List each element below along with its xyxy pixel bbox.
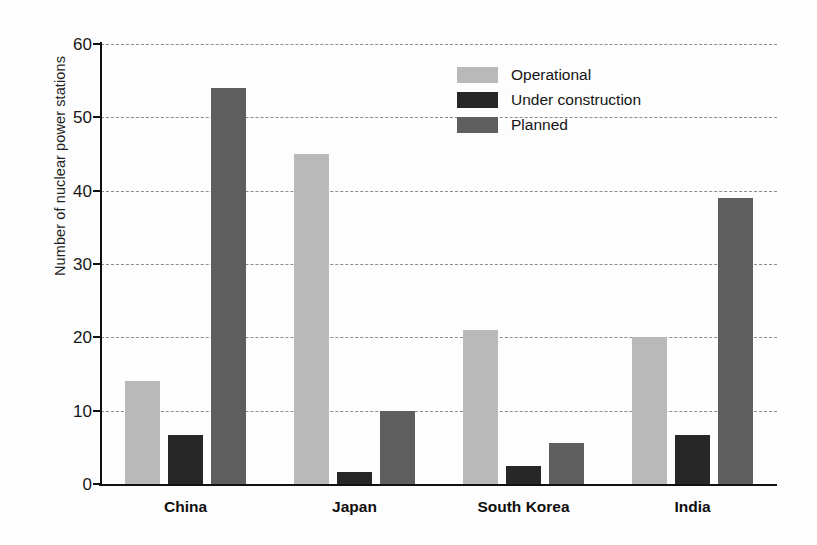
x-axis-line: [99, 484, 777, 486]
legend-label-operational: Operational: [511, 66, 591, 84]
legend-swatch-under-construction: [457, 92, 498, 108]
bars-layer: [101, 44, 777, 484]
bar-chart: Number of nuclear power stations 0102030…: [0, 0, 817, 545]
y-tick-label-40: 40: [48, 182, 92, 199]
y-tick-label-50: 50: [48, 109, 92, 126]
legend-item-under-construction: Under construction: [457, 87, 641, 112]
x-axis-label-india: India: [674, 498, 710, 516]
bar-india-operational: [632, 337, 667, 484]
x-axis-label-japan: Japan: [332, 498, 377, 516]
legend-swatch-operational: [457, 67, 498, 83]
y-tick-label-10: 10: [48, 402, 92, 419]
y-tick-label-30: 30: [48, 256, 92, 273]
y-tick-label-20: 20: [48, 329, 92, 346]
bar-india-under-construction: [675, 435, 710, 484]
bar-india-planned: [718, 198, 753, 484]
bar-china-planned: [211, 88, 246, 484]
bar-japan-under-construction: [337, 472, 372, 484]
legend-swatch-planned: [457, 117, 498, 133]
x-axis-label-south-korea: South Korea: [477, 498, 569, 516]
bar-japan-planned: [380, 411, 415, 484]
legend-label-under-construction: Under construction: [511, 91, 641, 109]
bar-china-under-construction: [168, 435, 203, 484]
bar-japan-operational: [294, 154, 329, 484]
plot-area: 0102030405060: [101, 44, 777, 484]
bar-china-operational: [125, 381, 160, 484]
legend-item-planned: Planned: [457, 112, 641, 137]
legend-label-planned: Planned: [511, 116, 568, 134]
y-tick-label-0: 0: [48, 476, 92, 493]
chart-legend: OperationalUnder constructionPlanned: [457, 62, 641, 137]
bar-south-korea-planned: [549, 443, 584, 484]
x-axis-label-china: China: [164, 498, 207, 516]
bar-south-korea-under-construction: [506, 466, 541, 484]
y-tick-label-60: 60: [48, 36, 92, 53]
bar-south-korea-operational: [463, 330, 498, 484]
legend-item-operational: Operational: [457, 62, 641, 87]
